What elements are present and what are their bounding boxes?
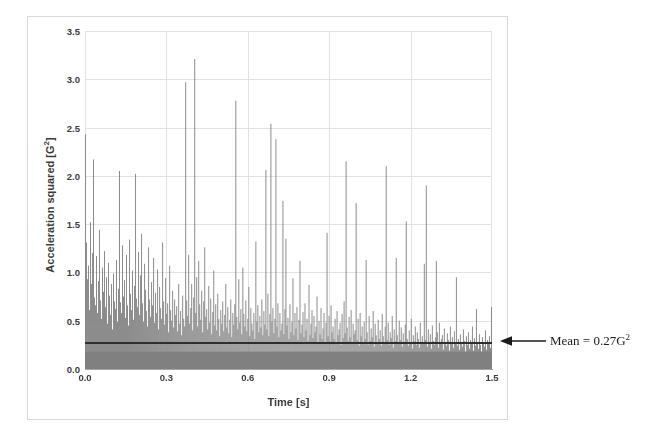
x-axis-tick-labels: 0.00.30.60.91.21.5 xyxy=(0,0,665,441)
x-axis-tick-label: 1.2 xyxy=(391,372,431,383)
x-axis-title: Time [s] xyxy=(85,396,492,408)
left-arrow-icon xyxy=(500,335,546,347)
mean-annotation-superscript: 2 xyxy=(626,332,631,342)
mean-annotation-label: Mean = 0.27G2 xyxy=(550,332,630,349)
mean-annotation-text: Mean = 0.27G xyxy=(550,333,626,348)
x-axis-tick-label: 1.5 xyxy=(472,372,512,383)
x-axis-tick-label: 0.9 xyxy=(309,372,349,383)
x-axis-tick-label: 0.6 xyxy=(228,372,268,383)
mean-annotation: Mean = 0.27G2 xyxy=(500,332,630,349)
x-axis-tick-label: 0.0 xyxy=(65,372,105,383)
x-axis-tick-label: 0.3 xyxy=(146,372,186,383)
